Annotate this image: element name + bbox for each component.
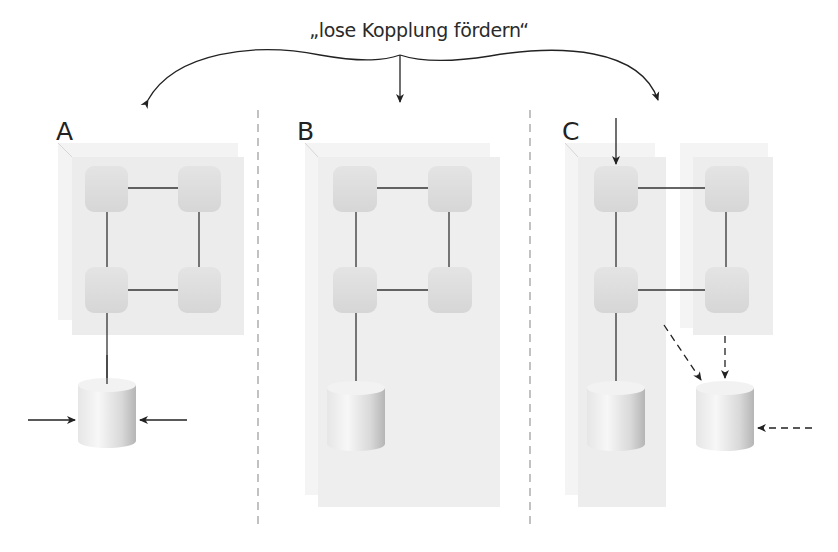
- architecture-diagram: [0, 0, 838, 552]
- service-node: [85, 166, 128, 212]
- service-node: [428, 267, 472, 313]
- panel-b: [305, 143, 500, 507]
- service-node: [333, 267, 377, 313]
- service-node: [333, 166, 377, 212]
- panel-a: [28, 143, 244, 448]
- panel-c: [565, 118, 812, 507]
- database-cylinder: [587, 381, 645, 451]
- database-cylinder-shared: [696, 381, 754, 451]
- database-cylinder: [327, 381, 385, 451]
- service-node: [594, 166, 638, 212]
- curly-brace-arrows: [148, 50, 658, 102]
- service-node: [178, 166, 221, 212]
- service-node: [428, 166, 472, 212]
- service-node: [85, 267, 128, 313]
- service-node: [178, 267, 221, 313]
- service-node: [705, 166, 749, 212]
- service-node: [705, 267, 749, 313]
- database-cylinder: [78, 378, 136, 448]
- service-node: [594, 267, 638, 313]
